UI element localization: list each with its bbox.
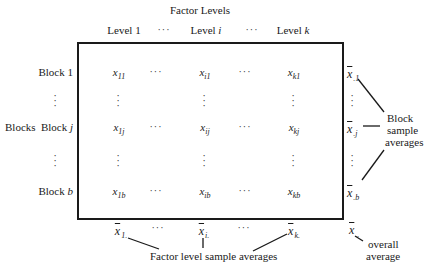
connector-overall	[355, 236, 363, 241]
connector-lines	[0, 0, 427, 266]
connector-factor-k	[253, 234, 287, 251]
connector-block-b	[362, 150, 384, 180]
connector-factor-1	[128, 238, 159, 249]
connector-block-1	[358, 79, 384, 112]
